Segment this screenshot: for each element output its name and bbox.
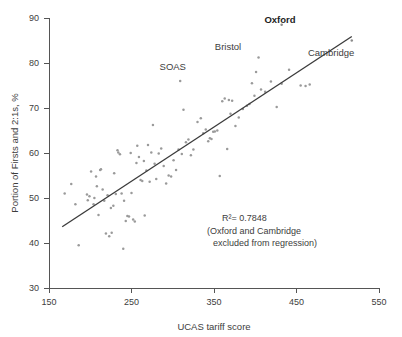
data-point bbox=[251, 82, 254, 85]
data-point bbox=[120, 192, 123, 195]
data-point bbox=[155, 178, 158, 181]
data-point bbox=[221, 100, 224, 103]
data-point bbox=[181, 153, 184, 156]
data-point bbox=[275, 106, 278, 109]
data-point bbox=[128, 215, 131, 218]
data-point bbox=[299, 84, 302, 87]
data-point bbox=[122, 248, 125, 251]
data-point bbox=[162, 165, 165, 168]
data-point bbox=[223, 97, 226, 100]
data-point bbox=[231, 100, 234, 103]
data-point bbox=[152, 124, 155, 127]
x-axis-ticks: 150250350450550 bbox=[41, 288, 386, 307]
data-point bbox=[112, 204, 115, 207]
y-tick-label: 80 bbox=[29, 58, 39, 68]
data-point bbox=[214, 130, 217, 133]
data-point bbox=[108, 235, 111, 238]
data-point bbox=[200, 117, 203, 120]
point-label-soas: SOAS bbox=[160, 61, 186, 72]
y-tick-label: 40 bbox=[29, 238, 39, 248]
data-point bbox=[90, 170, 93, 173]
data-point bbox=[110, 207, 113, 210]
data-point bbox=[304, 85, 307, 88]
data-point bbox=[136, 145, 139, 148]
point-label-oxford: Oxford bbox=[264, 14, 295, 25]
data-point bbox=[116, 149, 119, 152]
data-point bbox=[288, 69, 291, 72]
data-point bbox=[143, 214, 146, 217]
data-point bbox=[207, 140, 210, 143]
y-tick-label: 90 bbox=[29, 13, 39, 23]
data-point bbox=[226, 148, 229, 151]
data-point bbox=[167, 174, 170, 177]
data-point bbox=[105, 232, 108, 235]
y-tick-label: 50 bbox=[29, 193, 39, 203]
data-point bbox=[88, 195, 91, 198]
data-point bbox=[170, 175, 173, 178]
data-point bbox=[135, 162, 138, 165]
x-tick-label: 150 bbox=[41, 297, 56, 307]
data-point bbox=[97, 214, 100, 217]
data-point bbox=[147, 144, 150, 147]
point-label-bristol: Bristol bbox=[215, 41, 241, 52]
point-labels: SOASBristolOxfordCambridge bbox=[160, 14, 355, 72]
data-point bbox=[165, 182, 168, 185]
data-point bbox=[196, 121, 199, 124]
data-point bbox=[110, 231, 113, 234]
data-point bbox=[96, 185, 99, 188]
data-point bbox=[270, 80, 273, 83]
data-point bbox=[175, 169, 178, 172]
data-point bbox=[123, 199, 126, 202]
data-point bbox=[101, 188, 104, 191]
data-point bbox=[238, 116, 241, 119]
data-point bbox=[138, 156, 141, 159]
chart-canvas: 30405060708090 150250350450550 SOASBrist… bbox=[0, 0, 402, 337]
x-tick-label: 250 bbox=[124, 297, 139, 307]
data-point bbox=[228, 99, 231, 102]
data-point bbox=[119, 153, 122, 156]
data-point bbox=[182, 109, 185, 112]
y-axis-title: Portion of Firsts and 2:1s, % bbox=[9, 93, 20, 213]
data-point bbox=[260, 88, 263, 91]
data-point bbox=[185, 141, 188, 144]
data-point bbox=[205, 128, 208, 131]
data-point bbox=[63, 192, 66, 195]
data-point bbox=[192, 148, 195, 151]
data-point bbox=[257, 56, 260, 59]
data-point bbox=[150, 151, 153, 154]
data-point bbox=[148, 181, 151, 184]
data-point bbox=[86, 193, 89, 196]
data-point bbox=[308, 83, 311, 86]
data-point bbox=[70, 183, 73, 186]
exclusion-note-line1: (Oxford and Cambridge bbox=[207, 226, 301, 236]
x-tick-label: 550 bbox=[371, 297, 386, 307]
regression-line bbox=[62, 36, 352, 226]
y-tick-label: 60 bbox=[29, 148, 39, 158]
exclusion-note-line2: excluded from regression) bbox=[213, 238, 317, 248]
data-point bbox=[172, 159, 175, 162]
x-tick-label: 350 bbox=[206, 297, 221, 307]
data-point bbox=[130, 192, 133, 195]
data-point bbox=[253, 95, 256, 98]
data-point bbox=[216, 129, 219, 132]
y-tick-label: 30 bbox=[29, 283, 39, 293]
y-tick-label: 70 bbox=[29, 103, 39, 113]
x-tick-label: 450 bbox=[289, 297, 304, 307]
data-point bbox=[187, 138, 190, 141]
data-point bbox=[113, 172, 116, 175]
data-point bbox=[100, 168, 103, 171]
data-point bbox=[153, 163, 156, 166]
r-squared-annotation: R²= 0.7848 bbox=[222, 213, 267, 223]
data-point bbox=[87, 199, 90, 202]
data-point bbox=[179, 80, 182, 83]
data-point bbox=[219, 175, 222, 178]
data-point bbox=[157, 152, 160, 155]
data-point bbox=[160, 147, 163, 150]
data-point bbox=[229, 113, 232, 116]
data-point bbox=[210, 138, 213, 141]
data-point bbox=[77, 244, 80, 247]
x-axis-title: UCAS tariff score bbox=[177, 321, 250, 332]
data-point bbox=[93, 197, 96, 200]
data-point bbox=[255, 71, 258, 74]
scatter-chart: 30405060708090 150250350450550 SOASBrist… bbox=[0, 0, 402, 337]
